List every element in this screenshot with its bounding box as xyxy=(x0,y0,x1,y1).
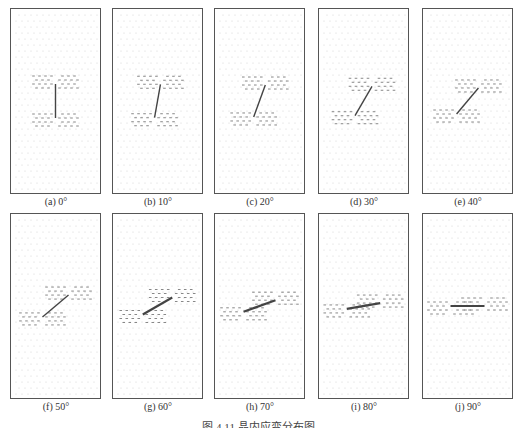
panel-label-e: (e) 40° xyxy=(422,196,514,207)
strain-field-plot xyxy=(423,214,512,398)
panel-label-a: (a) 0° xyxy=(10,196,102,207)
panel-j xyxy=(422,213,513,399)
strain-field-plot xyxy=(319,9,408,193)
figure-caption: 图 4.11 晶内应变分布图 xyxy=(0,418,517,428)
panel-i xyxy=(318,213,409,399)
strain-field-plot xyxy=(423,9,512,193)
strain-field-plot xyxy=(319,214,408,398)
panel-label-h: (h) 70° xyxy=(214,401,306,412)
panel-g xyxy=(112,213,203,399)
crack-line xyxy=(254,85,266,117)
crack-line xyxy=(155,84,161,117)
panel-a xyxy=(10,8,101,194)
panel-label-i: (i) 80° xyxy=(318,401,410,412)
panel-label-c: (c) 20° xyxy=(214,196,306,207)
panel-label-b: (b) 10° xyxy=(112,196,204,207)
panel-label-d: (d) 30° xyxy=(318,196,410,207)
crack-line xyxy=(347,303,380,309)
strain-field-plot xyxy=(11,9,100,193)
crack-line xyxy=(143,298,172,315)
panel-label-f: (f) 50° xyxy=(10,401,102,412)
panel-e xyxy=(422,8,513,194)
panel-h xyxy=(214,213,305,399)
crack-line xyxy=(355,86,372,115)
crack-line xyxy=(42,295,68,317)
strain-field-plot xyxy=(215,9,304,193)
panel-f xyxy=(10,213,101,399)
strain-field-plot xyxy=(11,214,100,398)
strain-field-plot xyxy=(113,214,202,398)
strain-field-plot xyxy=(215,214,304,398)
strain-field-plot xyxy=(113,9,202,193)
panel-d xyxy=(318,8,409,194)
panel-b xyxy=(112,8,203,194)
panel-label-g: (g) 60° xyxy=(112,401,204,412)
panel-c xyxy=(214,8,305,194)
crack-line xyxy=(244,300,276,312)
panel-label-j: (j) 90° xyxy=(422,401,514,412)
